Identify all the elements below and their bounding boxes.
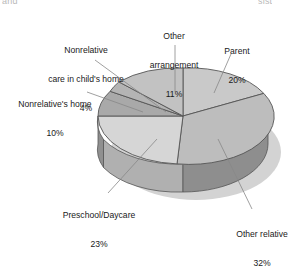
slice-label-parent: Parent 20%: [208, 28, 266, 105]
slice-label-parent-value: 20%: [208, 76, 266, 86]
slice-label-preschool-daycare-line1: Preschool/Daycare: [46, 211, 152, 221]
slice-label-other-arrangement-value: 11%: [136, 90, 212, 100]
slice-label-other-arrangement: Other arrangement 11%: [136, 13, 212, 119]
slice-label-nonrelative-care-line1: Nonrelative: [26, 46, 146, 56]
slice-label-nonrelatives-home: Nonrelative's home 10%: [2, 81, 108, 158]
slice-label-other-arrangement-line2: arrangement: [136, 61, 212, 71]
slice-label-other-relative-line1: Other relative: [222, 230, 302, 240]
slice-label-preschool-daycare: Preschool/Daycare 23%: [46, 192, 152, 269]
slice-label-nonrelatives-home-line1: Nonrelative's home: [2, 100, 108, 110]
slice-label-other-relative-value: 32%: [222, 259, 302, 269]
slice-label-other-relative: Other relative 32%: [222, 211, 302, 270]
slice-label-parent-line1: Parent: [208, 47, 266, 57]
slice-label-other-arrangement-line1: Other: [136, 32, 212, 42]
slice-label-nonrelatives-home-value: 10%: [2, 129, 108, 139]
slice-label-preschool-daycare-value: 23%: [46, 240, 152, 250]
